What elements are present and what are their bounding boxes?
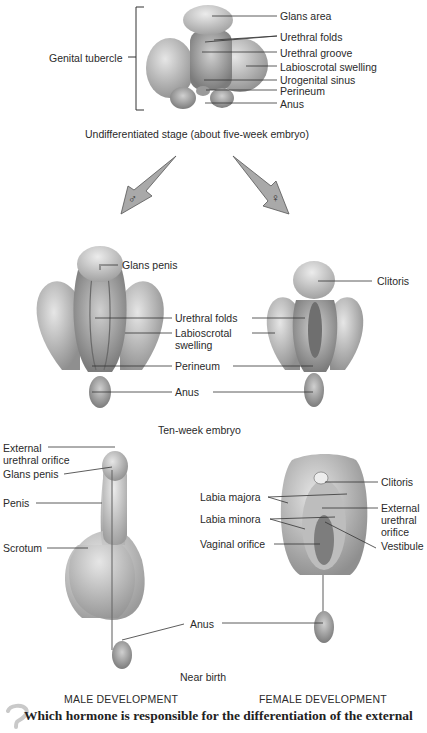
label-labioscrotal-swelling: Labioscrotal swelling	[280, 61, 377, 73]
female-pathway-arrow	[233, 156, 289, 214]
male-symbol-icon: ♂	[128, 193, 137, 205]
label-penis: Penis	[3, 497, 29, 509]
label-urethral-folds-10wk: Urethral folds	[175, 312, 237, 324]
label-anus-10wk: Anus	[175, 386, 199, 398]
label-labia-minora: Labia minora	[200, 513, 261, 525]
label-glans-penis: Glans penis	[122, 259, 177, 271]
heading-male-development: MALE DEVELOPMENT	[64, 693, 178, 705]
label-external-male: External	[3, 442, 42, 454]
label-perineum: Perineum	[280, 85, 325, 97]
label-clitoris-10wk: Clitoris	[377, 275, 409, 287]
label-anus-birth: Anus	[190, 618, 214, 630]
label-urethral-groove: Urethral groove	[280, 47, 352, 59]
label-scrotum: Scrotum	[3, 542, 42, 554]
label-orifice-female: orifice	[381, 526, 409, 538]
label-urethral-folds: Urethral folds	[280, 31, 342, 43]
label-glans-penis-birth: Glans penis	[3, 468, 58, 480]
label-clitoris-birth: Clitoris	[381, 476, 413, 488]
label-urethral-female: urethral	[381, 514, 417, 526]
female-symbol-icon: ♀	[271, 192, 280, 204]
caption-undifferentiated: Undifferentiated stage (about five-week …	[85, 128, 309, 140]
label-genital-tubercle: Genital tubercle	[49, 52, 123, 64]
label-anus: Anus	[280, 98, 304, 110]
heading-female-development: FEMALE DEVELOPMENT	[259, 693, 387, 705]
label-swelling-10wk: swelling	[175, 339, 212, 351]
undifferentiated-embryo	[128, 5, 277, 110]
female-ten-week-embryo	[213, 261, 372, 407]
review-question: Which hormone is responsible for the dif…	[24, 708, 413, 724]
label-urethral-orifice-male: urethral orifice	[3, 454, 70, 466]
label-vestibule: Vestibule	[381, 540, 424, 552]
label-external-female: External	[381, 502, 420, 514]
label-labioscrotal-10wk: Labioscrotal	[175, 327, 232, 339]
label-vaginal-orifice: Vaginal orifice	[200, 538, 265, 550]
male-near-birth	[36, 447, 184, 669]
caption-near-birth: Near birth	[180, 671, 226, 683]
label-glans-area: Glans area	[280, 10, 331, 22]
label-labia-majora: Labia majora	[200, 491, 261, 503]
caption-ten-week: Ten-week embryo	[158, 424, 241, 436]
label-perineum-10wk: Perineum	[175, 360, 220, 372]
